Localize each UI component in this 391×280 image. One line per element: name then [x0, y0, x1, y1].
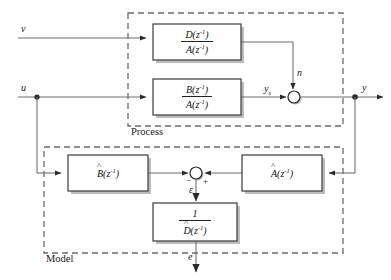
- block-text-a-hat: ^A(z-1): [242, 167, 322, 179]
- ys-subscript: s: [268, 89, 271, 96]
- b-num-close: ): [205, 84, 208, 95]
- signal-label-e: e: [188, 252, 192, 262]
- sum-sign-plus: +: [203, 177, 208, 186]
- block-diagram: v u n ys y ε e − + Process Model D(z-1) …: [0, 0, 391, 280]
- signal-label-n: n: [297, 68, 302, 78]
- block-text-disturbance-transfer: D(z-1) A(z-1): [153, 28, 241, 56]
- signal-label-epsilon: ε: [189, 185, 193, 195]
- a-hat-close: ): [290, 168, 293, 179]
- d-hat-close: ): [203, 225, 206, 236]
- block-text-b-hat: ^B(z-1): [68, 167, 148, 179]
- signal-label-u: u: [21, 83, 26, 93]
- signal-label-y: y: [362, 83, 366, 93]
- group-label-model: Model: [46, 254, 73, 265]
- d-num-symbol: D: [185, 29, 192, 40]
- signal-label-ys: ys: [264, 84, 271, 97]
- signal-label-v: v: [21, 24, 25, 34]
- block-text-d-hat-inverse: 1 ^D(z-1): [153, 208, 237, 236]
- d-hat-accent: ^: [183, 219, 188, 228]
- a-hat-accent: ^: [271, 162, 275, 171]
- b-hat-accent: ^: [97, 162, 101, 171]
- process-sum-junction: [288, 91, 300, 103]
- model-sum-junction: [190, 167, 202, 179]
- block-text-plant-transfer: B(z-1) A(z-1): [153, 83, 241, 111]
- sum-sign-minus: −: [186, 176, 191, 185]
- d-num-arg: (z: [193, 29, 200, 40]
- b-den-close: ): [205, 100, 208, 111]
- group-label-process: Process: [131, 127, 163, 138]
- b-hat-close: ): [116, 168, 119, 179]
- d-num-close: ): [205, 29, 208, 40]
- d-den-close: ): [205, 45, 208, 56]
- d-hat-arg: (z: [191, 225, 198, 236]
